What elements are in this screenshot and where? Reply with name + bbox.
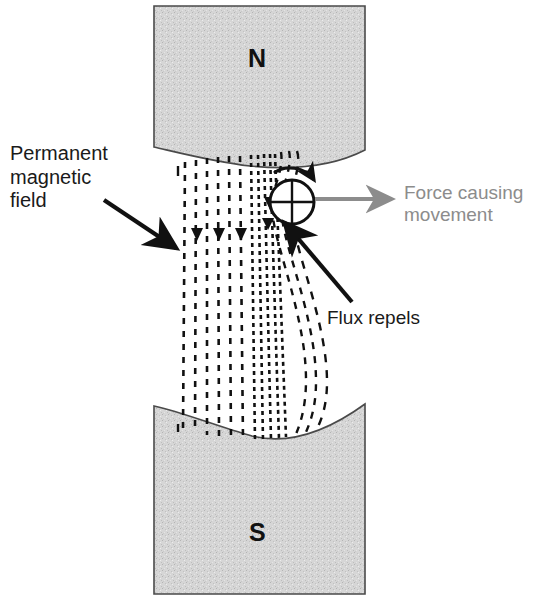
north-pole-magnet <box>154 6 365 168</box>
north-pole-label: N <box>248 44 266 73</box>
permanent-magnetic-field-label: Permanent magnetic field <box>10 142 150 213</box>
flux-direction-arrowheads <box>191 197 276 241</box>
magnet-conductor-diagram: N S Permanent magnetic field Force causi… <box>0 0 541 603</box>
flux-repels-label: Flux repels <box>327 307 420 329</box>
conductor-cross-section <box>270 180 314 224</box>
rotation-arrow <box>274 168 314 180</box>
diagram-canvas <box>0 0 541 603</box>
flux-repels-pointer-arrow <box>285 223 352 302</box>
south-pole-magnet <box>154 404 365 594</box>
south-pole-label: S <box>249 518 266 547</box>
force-causing-movement-label: Force causing movement <box>404 182 539 227</box>
